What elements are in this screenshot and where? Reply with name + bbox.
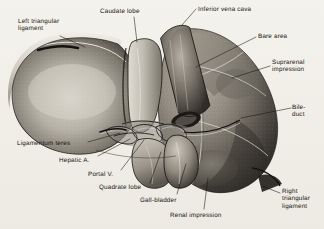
label-portal-vein: Portal V.	[88, 171, 113, 178]
label-hepatic-artery: Hepatic A.	[59, 157, 90, 164]
label-quadrate-lobe: Quadrate lobe	[99, 184, 141, 191]
label-gall-bladder: Gall-bladder	[140, 197, 176, 204]
label-caudate-lobe: Caudate lobe	[100, 8, 140, 15]
anatomical-plate-liver: Left triangular ligamentCaudate lobeInfe…	[0, 0, 324, 229]
suprarenal-impression-region	[216, 69, 256, 99]
label-ligamentum-teres: Ligamentum teres	[17, 140, 70, 147]
label-renal-impression: Renal impression	[170, 212, 222, 219]
label-suprarenal-impression: Suprarenal impression	[272, 59, 305, 74]
label-bare-area: Bare area	[258, 33, 287, 40]
label-left-triangular-ligament: Left triangular ligament	[18, 18, 59, 33]
label-right-triangular-ligament: Right triangular ligament	[282, 188, 310, 210]
label-bile-duct: Bile- duct	[292, 104, 306, 119]
label-inferior-vena-cava: Inferior vena cava	[198, 6, 251, 13]
